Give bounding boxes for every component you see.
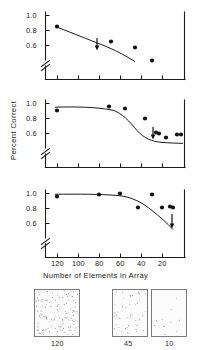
stimulus-label-10: 10 (165, 339, 173, 348)
stimulus-element (49, 322, 50, 323)
stimulus-element (154, 325, 155, 326)
panel-top-ytick-1: 1.0 (26, 11, 37, 20)
stimulus-element (132, 295, 133, 296)
stimulus-element (37, 297, 38, 298)
stimulus-element (41, 311, 42, 312)
stimulus-element (125, 328, 126, 329)
stimulus-element (127, 327, 128, 328)
stimulus-element (142, 315, 143, 316)
stimulus-element (76, 311, 77, 312)
stimulus-element (75, 306, 76, 307)
stimulus-element (74, 330, 75, 331)
stimulus-element (68, 327, 69, 328)
panel-middle-ytick-2: 0.8 (26, 114, 37, 123)
stimulus-element (57, 295, 58, 296)
stimulus-element (115, 305, 116, 306)
stimulus-element (72, 320, 73, 321)
panel-middle-data-points (55, 104, 183, 139)
data-point (175, 132, 179, 136)
stimulus-element (132, 318, 133, 319)
panel-top-fit-curve (56, 27, 135, 62)
stimulus-element (61, 326, 62, 327)
stimulus-element (130, 296, 131, 297)
stimulus-element (72, 297, 73, 298)
stimulus-element (68, 334, 69, 335)
stimulus-element (36, 301, 37, 302)
stimulus-element (65, 313, 66, 314)
stimulus-element (40, 333, 41, 334)
stimulus-element (39, 315, 40, 316)
panel-middle-x-ticks (58, 164, 163, 168)
stimulus-element (72, 312, 73, 313)
stimulus-element (65, 311, 66, 312)
stimulus-label-45: 45 (124, 339, 132, 348)
stimulus-element (58, 310, 59, 311)
stimulus-element (117, 312, 118, 313)
stimulus-element (51, 306, 52, 307)
stimulus-element (73, 292, 74, 293)
panel-top-ytick-3: 0.6 (26, 41, 37, 50)
stimulus-element (68, 300, 69, 301)
panel-bottom-ytick-3: 0.6 (26, 219, 37, 228)
data-point (109, 39, 113, 43)
stimulus-element (156, 320, 157, 321)
stimulus-element (135, 320, 136, 321)
stimulus-element (41, 333, 42, 334)
stimulus-element (75, 302, 76, 303)
stimulus-element (177, 331, 178, 332)
stimulus-element (70, 309, 71, 310)
panel-middle-ytick-1: 1.0 (26, 99, 37, 108)
stimulus-element (66, 303, 67, 304)
stimulus-element (55, 328, 56, 329)
stimulus-element (57, 306, 58, 307)
panel-middle-axis-break (42, 149, 50, 168)
stimulus-element (39, 316, 40, 317)
data-point (164, 135, 168, 139)
stimulus-element (63, 328, 64, 329)
panel-bottom-fit-curve (55, 194, 173, 229)
stimulus-element (41, 300, 42, 301)
stimulus-element (139, 299, 140, 300)
panel-top: 1.0 0.8 0.6 (26, 11, 185, 80)
stimulus-element (59, 318, 60, 319)
stimulus-element (39, 333, 40, 334)
stimulus-element (64, 304, 65, 305)
stimulus-element (179, 320, 180, 321)
stimulus-element (63, 323, 64, 324)
panel-bottom-x-ticks (58, 254, 163, 258)
stimulus-element (46, 317, 47, 318)
data-point (55, 194, 59, 198)
panel-middle-fit-curve (55, 107, 183, 143)
xtick-80: 80 (95, 259, 104, 268)
stimulus-element (42, 332, 43, 333)
stimulus-element (119, 318, 120, 319)
data-point (107, 104, 111, 108)
stimulus-element (62, 297, 63, 298)
stimulus-element (38, 300, 39, 301)
stimulus-element (116, 334, 117, 335)
stimulus-element (75, 311, 76, 312)
stimulus-element (36, 306, 37, 307)
stimulus-element (42, 299, 43, 300)
stimulus-element (59, 308, 60, 309)
data-point (157, 131, 161, 135)
stimulus-element (130, 316, 131, 317)
stimulus-element (162, 319, 163, 320)
stimulus-element (127, 317, 128, 318)
stimulus-element (118, 327, 119, 328)
stimulus-element (44, 316, 45, 317)
stimulus-element (72, 296, 73, 297)
stimulus-element (42, 305, 43, 306)
stimulus-element (115, 294, 116, 295)
stimulus-element (45, 307, 46, 308)
stimulus-element (70, 326, 71, 327)
stimulus-element (62, 330, 63, 331)
stimulus-element (46, 318, 47, 319)
data-point (97, 192, 101, 196)
stimulus-element (64, 332, 65, 333)
stimulus-element (41, 314, 42, 315)
stimulus-element (37, 311, 38, 312)
stimulus-element (57, 312, 58, 313)
xtick-100: 100 (72, 259, 85, 268)
stimulus-element (72, 334, 73, 335)
